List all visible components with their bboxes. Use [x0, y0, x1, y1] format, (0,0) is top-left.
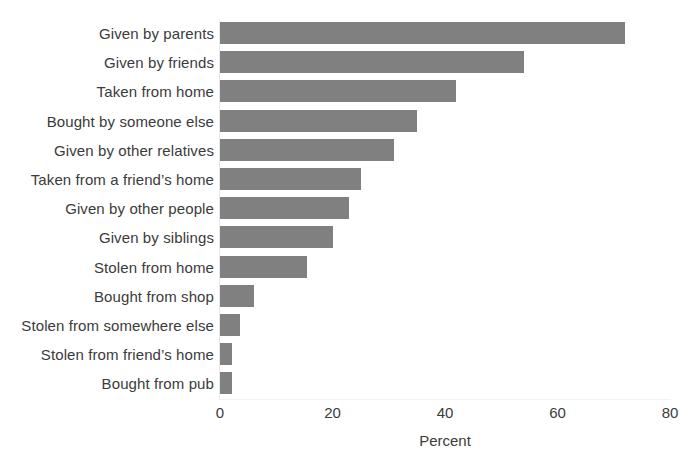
x-axis-tick-label: 80 — [662, 404, 679, 421]
bar-row: Bought by someone else — [0, 110, 690, 132]
bar — [220, 110, 417, 132]
x-axis-tick-label: 60 — [549, 404, 566, 421]
bar — [220, 343, 232, 365]
bar — [220, 168, 361, 190]
bar — [220, 256, 307, 278]
x-axis-tick-label: 0 — [216, 404, 224, 421]
bar-row: Bought from pub — [0, 372, 690, 394]
bar — [220, 285, 254, 307]
bar-category-label: Given by friends — [104, 54, 214, 71]
x-axis-tick-label: 40 — [437, 404, 454, 421]
bar — [220, 314, 240, 336]
bar — [220, 372, 232, 394]
bar — [220, 226, 333, 248]
x-axis-tick-label: 20 — [324, 404, 341, 421]
bar-category-label: Given by other people — [65, 200, 214, 217]
bar — [220, 80, 456, 102]
bar — [220, 139, 394, 161]
bar-category-label: Given by parents — [99, 25, 214, 42]
bar-row: Given by siblings — [0, 226, 690, 248]
x-axis-tick-labels: 020406080 — [0, 404, 690, 426]
bar-category-label: Stolen from somewhere else — [21, 317, 214, 334]
bar-category-label: Given by other relatives — [54, 141, 214, 158]
bar-category-label: Stolen from friend’s home — [41, 346, 214, 363]
bar-chart: Given by parentsGiven by friendsTaken fr… — [0, 0, 690, 474]
bar-row: Taken from home — [0, 80, 690, 102]
bar-row: Bought from shop — [0, 285, 690, 307]
plot-area: Given by parentsGiven by friendsTaken fr… — [0, 0, 690, 398]
bar — [220, 51, 524, 73]
bar-row: Given by friends — [0, 51, 690, 73]
bar-row: Taken from a friend’s home — [0, 168, 690, 190]
x-axis-line — [219, 399, 671, 400]
bar-category-label: Given by siblings — [99, 229, 214, 246]
bar-category-label: Stolen from home — [94, 258, 214, 275]
bar — [220, 22, 625, 44]
bar-category-label: Bought from pub — [102, 375, 214, 392]
bar-category-label: Taken from home — [97, 83, 214, 100]
bar — [220, 197, 349, 219]
x-axis-title: Percent — [220, 432, 670, 449]
bar-row: Given by other relatives — [0, 139, 690, 161]
bar-row: Given by other people — [0, 197, 690, 219]
bar-row: Given by parents — [0, 22, 690, 44]
bar-category-label: Bought from shop — [94, 287, 214, 304]
bar-category-label: Taken from a friend’s home — [31, 171, 214, 188]
bar-category-label: Bought by someone else — [47, 112, 214, 129]
bar-row: Stolen from home — [0, 256, 690, 278]
bar-row: Stolen from friend’s home — [0, 343, 690, 365]
bar-row: Stolen from somewhere else — [0, 314, 690, 336]
